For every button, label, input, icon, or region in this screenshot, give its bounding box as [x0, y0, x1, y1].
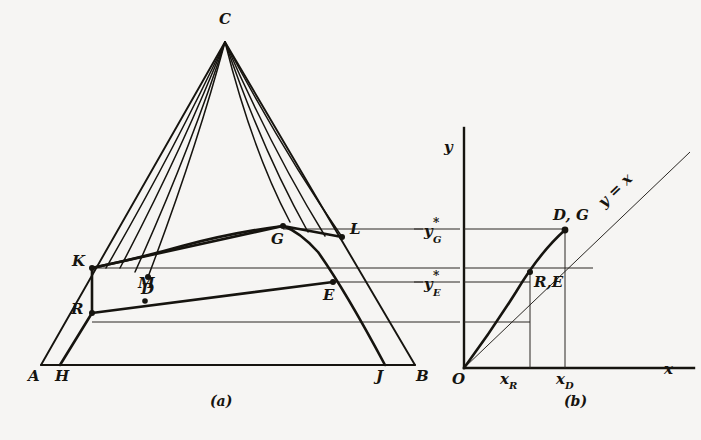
- label-diagonal-y-equals-x: y = x: [594, 169, 637, 212]
- panel-a-group: C A H J B K D R M G L E (a): [26, 10, 460, 409]
- node-dot-G: [280, 223, 286, 229]
- label-y-axis: y: [443, 138, 454, 156]
- ytick-label-yG: y * G: [414, 216, 442, 245]
- node-dot-K: [89, 265, 95, 271]
- label-M: M: [137, 274, 155, 292]
- tie-line-K-G: [92, 226, 283, 268]
- label-x-axis: x: [663, 360, 674, 378]
- point-dot-DG: [562, 227, 569, 234]
- projection-lines: [464, 229, 593, 368]
- ytick-yG-star: *: [433, 216, 440, 230]
- ytick-yG-sub: G: [433, 234, 442, 245]
- label-K: K: [71, 252, 86, 270]
- xtick-xD-sub: D: [564, 380, 574, 391]
- label-R: R: [70, 300, 83, 318]
- figure-page: C A H J B K D R M G L E (a): [0, 0, 701, 440]
- label-G: G: [271, 230, 284, 248]
- caption-panel-b: (b): [564, 393, 587, 409]
- node-dot-E: [330, 279, 336, 285]
- ytick-yE-sub: E: [432, 287, 441, 298]
- node-dot-R: [89, 310, 95, 316]
- residue-curve-4: [106, 42, 225, 268]
- tie-line-R-E: [92, 282, 333, 313]
- label-C: C: [219, 10, 231, 28]
- ytick-yE-star: *: [433, 269, 440, 283]
- label-origin: O: [452, 370, 465, 388]
- boundary-left-H-to-G: [60, 226, 283, 365]
- caption-panel-a: (a): [210, 393, 232, 409]
- label-E: E: [322, 286, 335, 304]
- label-B: B: [415, 367, 429, 385]
- label-point-DG: D, G: [552, 206, 589, 224]
- xtick-label-xD: x D: [555, 370, 574, 391]
- node-dot-L: [339, 234, 345, 240]
- label-point-RE: R,E: [533, 273, 564, 291]
- label-L: L: [349, 220, 361, 238]
- equilibrium-curve: [464, 230, 565, 368]
- label-J: J: [373, 367, 384, 385]
- label-H: H: [54, 367, 70, 385]
- triangle-edge-CA: [41, 42, 225, 365]
- xtick-xR-sub: R: [508, 380, 517, 391]
- label-A: A: [26, 367, 40, 385]
- diagonal-y-equals-x: [464, 152, 690, 368]
- ytick-label-yE: y * E: [414, 269, 441, 298]
- figure-svg: C A H J B K D R M G L E (a): [0, 0, 701, 440]
- point-dot-RE: [527, 269, 533, 275]
- xtick-label-xR: x R: [499, 370, 517, 391]
- node-dot-M: [142, 298, 148, 304]
